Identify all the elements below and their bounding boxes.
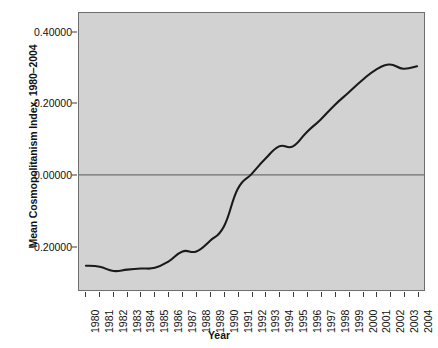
x-axis-tick-label: 1987 — [186, 299, 198, 333]
data-line-series — [86, 64, 417, 271]
x-axis-tick-mark — [224, 292, 225, 297]
x-axis-tick-mark — [238, 292, 239, 297]
x-axis-tick-label: 1990 — [228, 299, 240, 333]
x-axis-tick-mark — [168, 292, 169, 297]
x-axis-tick-mark — [293, 292, 294, 297]
x-axis-tick-label: 1998 — [339, 299, 351, 333]
y-axis-tick-mark — [72, 31, 77, 32]
y-axis-tick-mark — [72, 103, 77, 104]
x-axis-tick-mark — [265, 292, 266, 297]
x-axis-tick-mark — [321, 292, 322, 297]
chart-figure: Mean Cosmopolitanism Index, 1980–2004 0.… — [0, 0, 438, 348]
x-axis-tick-label: 1994 — [283, 299, 295, 333]
x-axis-title: Year — [0, 329, 438, 341]
x-axis-tick-label: 1980 — [89, 299, 101, 333]
x-axis-tick-mark — [390, 292, 391, 297]
x-axis-tick-label: 1999 — [353, 299, 365, 333]
x-axis-tick-mark — [252, 292, 253, 297]
x-axis-tick-mark — [349, 292, 350, 297]
y-axis-tick-label: 0.40000 — [12, 26, 72, 38]
x-axis-tick-mark — [376, 292, 377, 297]
x-axis-tick-mark — [363, 292, 364, 297]
x-axis-tick-label: 1981 — [103, 299, 115, 333]
x-axis-tick-mark — [113, 292, 114, 297]
x-axis-tick-label: 1996 — [311, 299, 323, 333]
plot-canvas — [79, 13, 424, 290]
y-axis-tick-label: −0.20000 — [12, 241, 72, 253]
x-axis-tick-mark — [85, 292, 86, 297]
x-axis-tick-label: 1985 — [158, 299, 170, 333]
x-axis-tick-mark — [210, 292, 211, 297]
x-axis-tick-mark — [404, 292, 405, 297]
x-axis-tick-label: 1992 — [256, 299, 268, 333]
x-axis-tick-label: 2003 — [408, 299, 420, 333]
x-axis-tick-mark — [418, 292, 419, 297]
x-axis-tick-mark — [279, 292, 280, 297]
x-axis-tick-mark — [196, 292, 197, 297]
x-axis-tick-mark — [140, 292, 141, 297]
x-axis-tick-label: 1988 — [200, 299, 212, 333]
x-axis-tick-label: 2000 — [367, 299, 379, 333]
x-axis-tick-mark — [335, 292, 336, 297]
x-axis-tick-label: 1984 — [144, 299, 156, 333]
x-axis-tick-mark — [99, 292, 100, 297]
y-axis-tick-mark — [72, 175, 77, 176]
x-axis-tick-label: 2001 — [380, 299, 392, 333]
x-axis-tick-mark — [154, 292, 155, 297]
x-axis-tick-label: 1989 — [214, 299, 226, 333]
x-axis-tick-label: 1982 — [117, 299, 129, 333]
x-axis-tick-mark — [127, 292, 128, 297]
x-axis-tick-label: 1995 — [297, 299, 309, 333]
x-axis-tick-label: 2004 — [422, 299, 434, 333]
x-axis-tick-label: 1993 — [269, 299, 281, 333]
x-axis-tick-label: 1991 — [242, 299, 254, 333]
x-axis-tick-label: 1997 — [325, 299, 337, 333]
y-axis-tick-label: 0.20000 — [12, 97, 72, 109]
x-axis-tick-mark — [307, 292, 308, 297]
y-axis-tick-mark — [72, 246, 77, 247]
x-axis-tick-label: 2002 — [394, 299, 406, 333]
plot-area — [78, 12, 425, 291]
x-axis-tick-mark — [182, 292, 183, 297]
x-axis-tick-label: 1986 — [172, 299, 184, 333]
x-axis-tick-label: 1983 — [131, 299, 143, 333]
y-axis-tick-label: 0.00000 — [12, 169, 72, 181]
